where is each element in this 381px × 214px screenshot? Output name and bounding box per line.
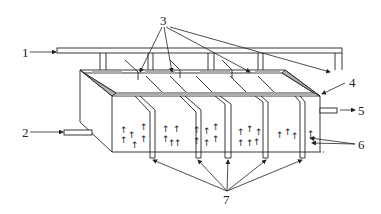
tank-diagram: ↑↑↑ ↑↑↑ ↑↑↑ ↑↑ ↑↑↑ ↑↑↑ ↑↑↑ ↑↑↑ ↑↑↑ ↑↑ <box>0 0 381 214</box>
label-4: 4 <box>349 76 356 89</box>
svg-text:↑: ↑ <box>120 125 128 135</box>
tank-top-rim <box>80 70 320 96</box>
svg-text:↑: ↑ <box>173 124 181 134</box>
svg-text:↑: ↑ <box>276 130 284 140</box>
discharge-tubes <box>135 96 305 158</box>
label-2: 2 <box>22 126 29 139</box>
svg-text:↑: ↑ <box>162 124 170 134</box>
side-inlet-pipe <box>64 130 92 135</box>
label-3: 3 <box>160 14 167 27</box>
label-1: 1 <box>22 46 29 59</box>
svg-text:↑: ↑ <box>291 131 299 141</box>
svg-text:↑: ↑ <box>120 135 128 145</box>
svg-text:↑: ↑ <box>237 127 245 137</box>
svg-text:↑: ↑ <box>203 126 211 136</box>
svg-text:↑: ↑ <box>140 134 148 144</box>
svg-text:↑: ↑ <box>193 136 201 146</box>
outlet-pipe <box>320 108 337 113</box>
svg-text:↑: ↑ <box>253 137 261 147</box>
svg-text:↑: ↑ <box>174 138 182 148</box>
label-6: 6 <box>358 138 365 151</box>
svg-text:↑: ↑ <box>255 127 263 137</box>
svg-text:↑: ↑ <box>246 124 254 134</box>
top-inlet-pipe <box>57 48 342 70</box>
svg-text:↑: ↑ <box>140 122 148 132</box>
svg-text:↑: ↑ <box>212 122 220 132</box>
svg-text:↑: ↑ <box>237 138 245 148</box>
svg-text:↑: ↑ <box>131 140 139 150</box>
svg-text:↑: ↑ <box>212 134 220 144</box>
svg-text:↑: ↑ <box>203 138 211 148</box>
label-7: 7 <box>223 193 230 206</box>
svg-text:↑: ↑ <box>128 130 136 140</box>
label-5: 5 <box>358 104 365 117</box>
svg-text:↑: ↑ <box>193 125 201 135</box>
